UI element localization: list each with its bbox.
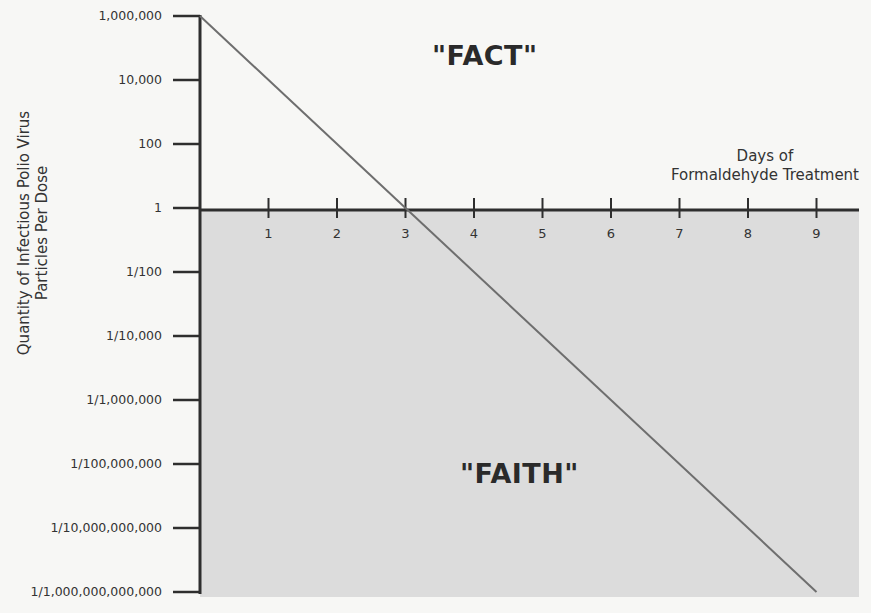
x-tick-label: 5 [538,226,546,241]
x-axis-label-line-1: Days of [671,147,859,166]
faith-annotation: "FAITH" [460,458,579,489]
y-tick-label: 1 [154,200,162,215]
x-tick-label: 4 [470,226,478,241]
x-tick-label: 7 [675,226,683,241]
y-axis-ticks: 1,000,00010,00010011/1001/10,0001/1,000,… [31,8,200,599]
y-tick-label: 1/10,000 [106,328,162,343]
x-tick-label: 8 [744,226,752,241]
x-tick-label: 2 [333,226,341,241]
y-axis-label-line-2: Particles Per Dose [33,88,51,378]
x-axis-label-line-2: Formaldehyde Treatment [671,166,859,185]
y-tick-label: 100 [138,136,162,151]
y-tick-label: 1,000,000 [98,8,162,23]
x-tick-label: 9 [812,226,820,241]
y-axis-label: Quantity of Infectious Polio Virus Parti… [15,88,51,378]
y-tick-label: 10,000 [118,72,162,87]
y-tick-label: 1/1,000,000,000,000 [31,584,162,599]
y-tick-label: 1/100 [126,264,162,279]
chart-canvas: 1,000,00010,00010011/1001/10,0001/1,000,… [0,0,871,613]
y-axis-label-line-1: Quantity of Infectious Polio Virus [15,88,33,378]
x-tick-label: 3 [401,226,409,241]
x-tick-label: 1 [264,226,272,241]
x-axis-label: Days of Formaldehyde Treatment [671,147,859,185]
y-tick-label: 1/10,000,000,000 [50,520,162,535]
x-tick-label: 6 [607,226,615,241]
y-tick-label: 1/100,000,000 [70,456,162,471]
fact-annotation: "FACT" [432,40,538,71]
y-tick-label: 1/1,000,000 [86,392,162,407]
